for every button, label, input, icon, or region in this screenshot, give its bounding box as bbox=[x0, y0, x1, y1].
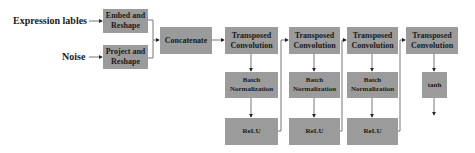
project-reshape-block: Project and Reshape bbox=[103, 45, 148, 69]
transposed-conv-block-1: Transposed Convolution bbox=[225, 27, 278, 54]
concatenate-block: Concatenate bbox=[160, 27, 212, 54]
relu-block-1: ReLU bbox=[225, 118, 278, 145]
input-noise: Noise bbox=[62, 51, 85, 63]
tanh-block: tanh bbox=[422, 72, 447, 98]
relu-block-2: ReLU bbox=[289, 118, 340, 145]
transposed-conv-block-3: Transposed Convolution bbox=[347, 27, 398, 54]
batch-norm-block-3: Batch Normalization bbox=[347, 72, 398, 98]
embed-reshape-block: Embed and Reshape bbox=[103, 9, 148, 33]
input-expression-labels: Expression lables bbox=[13, 15, 87, 27]
transposed-conv-block-4: Transposed Convolution bbox=[406, 27, 458, 54]
relu-block-3: ReLU bbox=[347, 118, 398, 145]
transposed-conv-block-2: Transposed Convolution bbox=[289, 27, 340, 54]
batch-norm-block-2: Batch Normalization bbox=[289, 72, 340, 98]
batch-norm-block-1: Batch Normalization bbox=[225, 72, 278, 98]
